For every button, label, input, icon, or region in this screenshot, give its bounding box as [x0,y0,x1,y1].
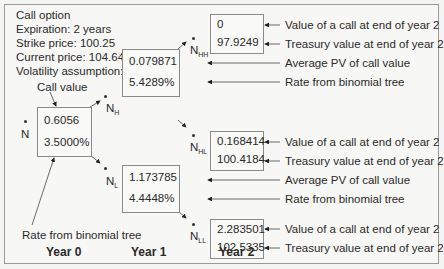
node-label-nhh: NHH [190,44,208,58]
call-value: 2.283501 [217,223,265,235]
node-dot-nhl [192,134,195,137]
year-2-label: Year 2 [219,245,254,259]
label-call-end-y2: Value of a call at end of year 2 [285,222,440,236]
year-0-label: Year 0 [46,245,81,259]
treasury-value: 97.9249 [217,36,259,48]
rate-value: 5.4289% [129,76,174,88]
label-call-end-y2: Value of a call at end of year 2 [285,135,440,149]
call-value-label: Call value [37,80,88,94]
node-dot-nll [192,223,195,226]
call-value: 0 [217,18,223,30]
year-1-label: Year 1 [131,245,166,259]
node-box-nh: 0.079871 5.4289% [122,49,180,97]
call-value: 0.079871 [129,55,177,67]
label-avg-pv: Average PV of call value [285,173,410,187]
call-value: 0.6056 [44,114,79,126]
node-dot-nl [104,167,107,170]
call-value: 0.168414 [217,135,265,147]
rate-value: 3.5000% [44,136,89,148]
rate-label: Rate from binomial tree [22,228,142,242]
label-call-end-y2: Value of a call at end of year 2 [285,18,440,32]
label-avg-pv: Average PV of call value [285,56,410,70]
node-label-nh: NH [106,102,119,116]
rate-value: 4.4448% [129,192,174,204]
label-treasury-end-y2: Treasury value at end of year 2 [285,37,444,51]
label-treasury-end-y2: Treasury value at end of year 2 [285,241,444,255]
call-value: 1.173785 [129,171,177,183]
node-label-n: N [21,128,29,140]
node-dot-nh [104,95,107,98]
node-label-nhl: NHL [190,141,207,155]
node-label-nll: NLL [190,230,206,244]
node-dot-nhh [192,37,195,40]
label-rate-tree: Rate from binomial tree [285,192,405,206]
label-rate-tree: Rate from binomial tree [285,75,405,89]
label-treasury-end-y2: Treasury value at end of year 2 [285,154,444,168]
node-box-nhl: 0.168414 100.4184 [210,131,264,171]
node-dot-n [24,120,27,123]
node-box-nhh: 0 97.9249 [210,14,264,54]
treasury-value: 100.4184 [217,153,265,165]
node-box-nl: 1.173785 4.4448% [122,165,180,213]
node-label-nl: NL [106,175,118,189]
node-box-n: 0.6056 3.5000% [37,107,92,157]
